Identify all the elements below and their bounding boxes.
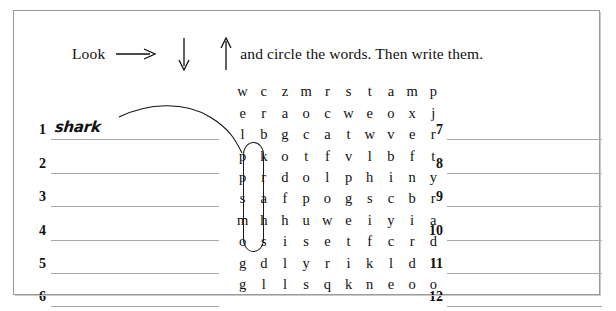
grid-letter-r5-c7: h [359, 167, 380, 188]
answer-number: 12 [422, 290, 443, 307]
grid-letter-r6-c8: c [380, 188, 401, 209]
answer-number: 6 [32, 290, 46, 307]
grid-letter-r5-c5: l [317, 167, 338, 188]
grid-letter-r6-c2: a [253, 188, 274, 209]
answer-blank-line-1[interactable]: shark [51, 107, 219, 140]
answer-number: 5 [32, 257, 46, 274]
instruction-lead-text: Look [72, 45, 105, 63]
arrow-down-icon [174, 37, 194, 71]
grid-letter-r6-c9: b [402, 188, 423, 209]
grid-letter-r2-c2: r [253, 102, 274, 123]
grid-letter-r4-c9: f [402, 145, 423, 166]
grid-letter-r2-c3: a [274, 102, 295, 123]
grid-letter-r1-c6: s [338, 81, 359, 102]
grid-letter-r1-c1: w [232, 81, 253, 102]
grid-letter-r8-c3: i [274, 231, 295, 252]
answer-blank-line-5[interactable] [51, 241, 219, 274]
grid-letter-r4-c7: l [359, 145, 380, 166]
grid-letter-r10-c2: l [253, 274, 274, 295]
grid-letter-r5-c4: o [296, 167, 317, 188]
answer-blank-line-10[interactable] [447, 207, 602, 240]
grid-letter-r4-c6: v [338, 145, 359, 166]
grid-letter-r9-c1: g [232, 252, 253, 273]
grid-letter-r1-c3: z [274, 81, 295, 102]
grid-letter-r8-c2: s [253, 231, 274, 252]
answer-blank-line-11[interactable] [447, 241, 602, 274]
grid-letter-r5-c8: i [380, 167, 401, 188]
answer-number: 8 [422, 157, 443, 174]
answer-blank-line-7[interactable] [447, 107, 602, 140]
answer-row: 8 [422, 140, 602, 173]
grid-letter-r9-c2: d [253, 252, 274, 273]
grid-letter-r8-c6: t [338, 231, 359, 252]
grid-letter-r7-c5: w [317, 209, 338, 230]
answer-row: 12 [422, 274, 602, 307]
grid-letter-r8-c5: e [317, 231, 338, 252]
grid-letter-r10-c9: o [402, 274, 423, 295]
answer-row: 4 [32, 207, 219, 240]
grid-letter-r5-c3: d [274, 167, 295, 188]
grid-letter-r2-c8: o [380, 102, 401, 123]
grid-letter-r4-c2: k [253, 145, 274, 166]
grid-letter-r7-c8: y [380, 209, 401, 230]
grid-letter-r7-c9: i [402, 209, 423, 230]
letter-search-grid: wczmrstamperaocweoxjlbgcatwverpkotfvlbft… [232, 81, 444, 295]
grid-letter-r1-c9: m [402, 81, 423, 102]
grid-letter-r1-c10: p [423, 81, 444, 102]
answer-number: 2 [32, 157, 46, 174]
answer-blank-line-12[interactable] [447, 274, 602, 307]
arrow-right-icon [114, 47, 158, 61]
grid-letter-r10-c3: l [274, 274, 295, 295]
grid-letter-r9-c7: k [359, 252, 380, 273]
grid-letter-r1-c5: r [317, 81, 338, 102]
answer-row: 11 [422, 241, 602, 274]
answer-row: 9 [422, 174, 602, 207]
grid-letter-r2-c7: e [359, 102, 380, 123]
answer-number: 9 [422, 190, 443, 207]
answer-number: 11 [422, 257, 443, 274]
grid-letter-r10-c7: n [359, 274, 380, 295]
grid-letter-r9-c9: d [402, 252, 423, 273]
answer-row: 3 [32, 174, 219, 207]
answer-blank-line-4[interactable] [51, 207, 219, 240]
grid-letter-r1-c7: t [359, 81, 380, 102]
grid-letter-r1-c4: m [296, 81, 317, 102]
answer-handwritten-text: shark [54, 118, 102, 136]
grid-letter-r8-c9: r [402, 231, 423, 252]
answer-blank-line-9[interactable] [447, 174, 602, 207]
answer-row: 1shark [32, 107, 219, 140]
answer-number: 7 [422, 123, 443, 140]
answer-blank-line-6[interactable] [51, 274, 219, 307]
instruction-line: Look and circle the words. T [72, 39, 483, 69]
grid-letter-r7-c2: h [253, 209, 274, 230]
answer-blank-line-2[interactable] [51, 140, 219, 173]
grid-letter-r10-c5: q [317, 274, 338, 295]
answer-blank-line-3[interactable] [51, 174, 219, 207]
grid-letter-r10-c4: s [296, 274, 317, 295]
grid-letter-r1-c8: a [380, 81, 401, 102]
grid-letter-r3-c7: w [359, 124, 380, 145]
answer-blank-line-8[interactable] [447, 140, 602, 173]
grid-letter-r7-c4: u [296, 209, 317, 230]
grid-letter-r4-c4: t [296, 145, 317, 166]
grid-letter-r2-c6: w [338, 102, 359, 123]
grid-letter-r5-c6: p [338, 167, 359, 188]
grid-letter-r6-c5: o [317, 188, 338, 209]
grid-letter-r5-c9: n [402, 167, 423, 188]
worksheet-page: Look and circle the words. T [0, 0, 616, 311]
grid-letter-r8-c4: s [296, 231, 317, 252]
grid-letter-r2-c9: x [402, 102, 423, 123]
grid-letter-r3-c6: t [338, 124, 359, 145]
grid-letter-r7-c6: e [338, 209, 359, 230]
arrow-up-icon [216, 37, 236, 71]
grid-letter-r4-c8: b [380, 145, 401, 166]
grid-letter-r5-c2: r [253, 167, 274, 188]
grid-letter-r2-c4: o [296, 102, 317, 123]
answer-row: 5 [32, 241, 219, 274]
grid-letter-r6-c7: s [359, 188, 380, 209]
instruction-tail-text: and circle the words. Then write them. [240, 45, 483, 63]
grid-letter-r9-c5: r [317, 252, 338, 273]
grid-letter-r3-c3: g [274, 124, 295, 145]
grid-letter-r7-c1: m [232, 209, 253, 230]
answer-row: 10 [422, 207, 602, 240]
